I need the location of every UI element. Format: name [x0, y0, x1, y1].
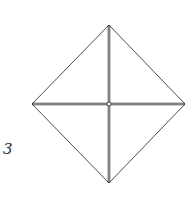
diamond-figure — [0, 0, 196, 211]
folding-diagram: 3 — [0, 0, 196, 211]
step-number: 3 — [3, 140, 13, 158]
center-point-icon — [107, 102, 111, 106]
